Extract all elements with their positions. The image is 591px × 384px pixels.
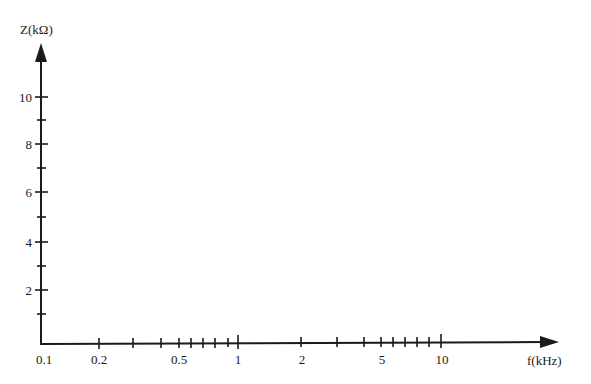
x-tick-label: 10 bbox=[436, 352, 449, 367]
x-tick-label: 0.1 bbox=[36, 352, 52, 367]
x-tick-label: 2 bbox=[299, 352, 306, 367]
x-tick-label: 0.5 bbox=[171, 352, 187, 367]
y-axis-arrow-icon bbox=[35, 43, 47, 62]
x-axis-title: f(kHz) bbox=[527, 353, 562, 368]
y-tick-label: 10 bbox=[19, 90, 32, 105]
y-tick-label: 4 bbox=[26, 235, 33, 250]
x-tick-label: 5 bbox=[379, 352, 386, 367]
x-axis-line bbox=[40, 342, 545, 344]
y-tick-label: 2 bbox=[26, 283, 33, 298]
x-axis-arrow-icon bbox=[540, 336, 559, 348]
y-tick-label: 8 bbox=[26, 137, 33, 152]
y-axis-title: Z(kΩ) bbox=[20, 22, 53, 37]
chart-canvas: Z(kΩ) f(kHz) 10 8 6 4 2 0.1 0.2 0.5 1 2 … bbox=[0, 0, 591, 384]
y-tick-label: 6 bbox=[26, 185, 33, 200]
x-tick-label: 1 bbox=[235, 352, 242, 367]
x-tick-label: 0.2 bbox=[91, 352, 107, 367]
x-ticks bbox=[99, 334, 441, 349]
